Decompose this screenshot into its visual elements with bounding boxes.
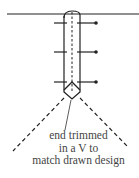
caption-line-3: match drawn design bbox=[18, 154, 139, 167]
caption-line-1: end trimmed bbox=[18, 129, 139, 142]
caption-line-2: in a V to bbox=[18, 142, 139, 155]
pin-head-1 bbox=[94, 21, 98, 25]
annotation-leader-line bbox=[65, 100, 71, 130]
pin-head-3 bbox=[94, 80, 98, 84]
annotation-caption: end trimmed in a V to match drawn design bbox=[0, 129, 139, 167]
pin-head-2 bbox=[94, 50, 98, 54]
